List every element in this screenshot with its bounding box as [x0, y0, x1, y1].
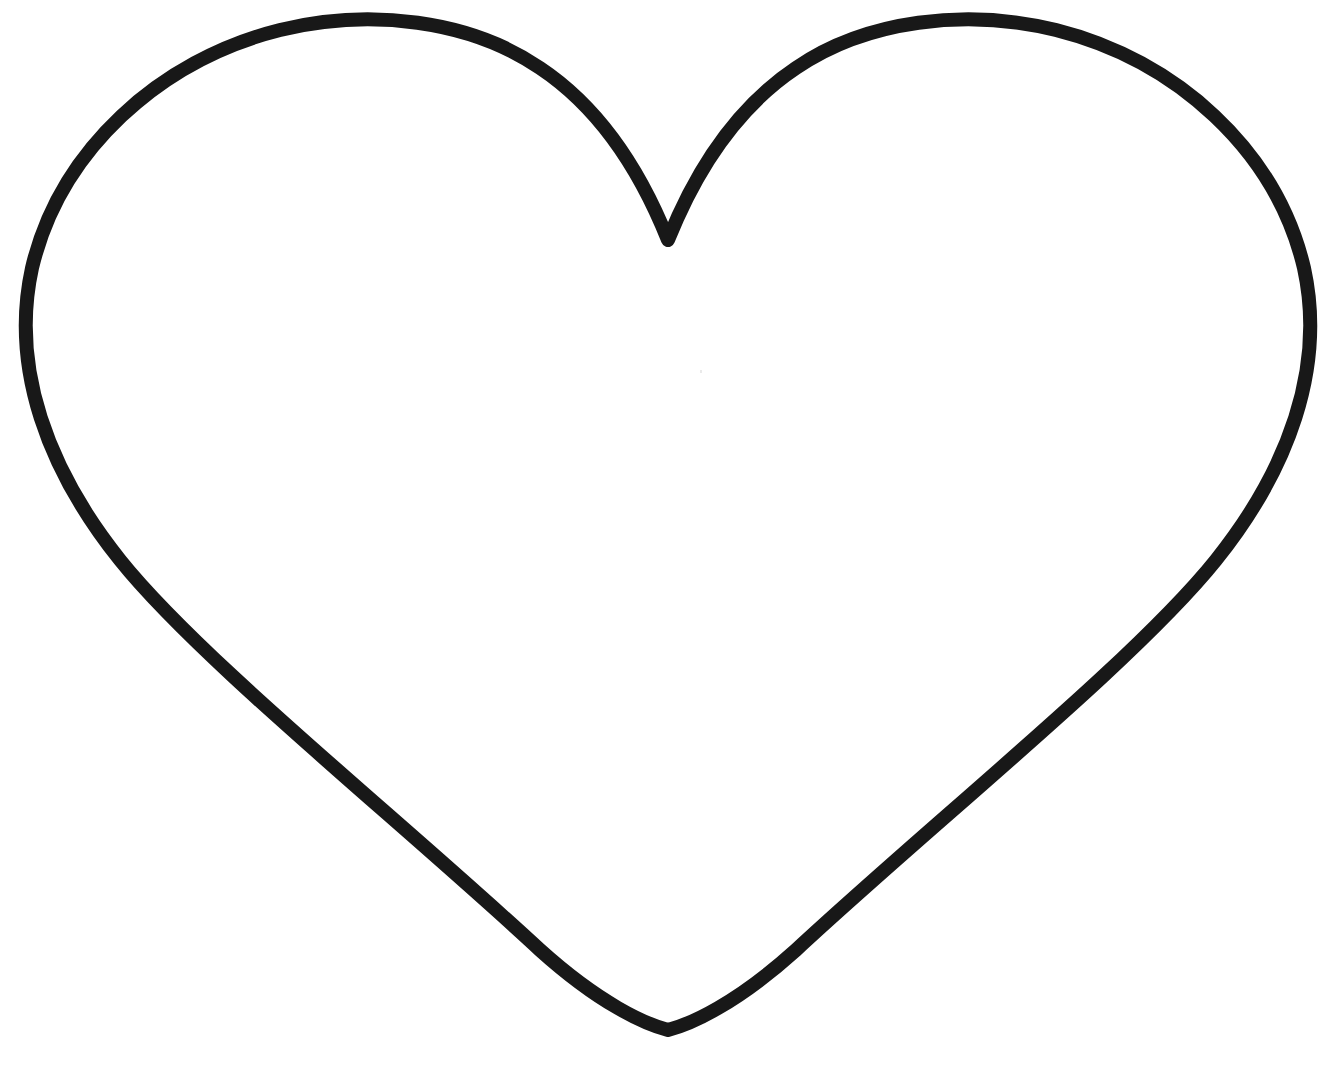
heart-illustration	[0, 0, 1322, 1073]
image-canvas	[0, 0, 1322, 1073]
scanner-speck	[700, 370, 702, 373]
background-rect	[0, 0, 1322, 1073]
